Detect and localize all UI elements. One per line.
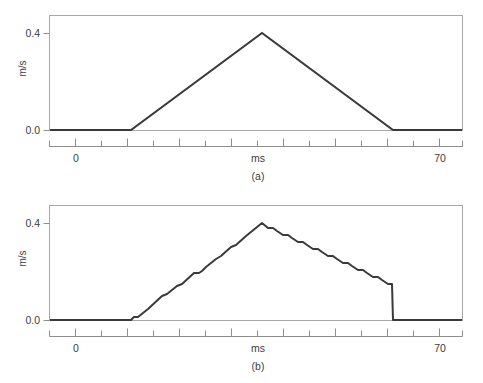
- plot-a-xaxis-unit-label: ms: [240, 152, 276, 164]
- plot-a-ytick-label-upper: 0.4: [10, 27, 40, 39]
- plot-b-yticks: [44, 224, 50, 321]
- plot-a-xticks: [50, 139, 463, 147]
- plot-b-xaxis-unit-label: ms: [240, 342, 276, 354]
- plot-a-yticks: [44, 34, 50, 131]
- plot-b-caption: (b): [228, 360, 288, 372]
- plot-a-caption: (a): [228, 170, 288, 182]
- plot-b-xtick-label-zero: 0: [60, 342, 92, 354]
- plot-b-frame: [50, 206, 463, 321]
- plot-a-frame: [50, 16, 463, 131]
- plot-a-xtick-label-seventy: 70: [424, 152, 456, 164]
- plot-a-trace: [50, 33, 462, 130]
- plot-b-xticks: [50, 329, 463, 337]
- plot-b-ytick-label-lower: 0.0: [10, 314, 40, 326]
- plot-b-ylabel: m/s: [17, 239, 28, 279]
- plot-b-ytick-label-upper: 0.4: [10, 217, 40, 229]
- figure-container: m/s 0.4 0.0 0 ms 70 (a): [0, 0, 483, 383]
- plot-a-ylabel: m/s: [17, 49, 28, 89]
- plot-a-xtick-label-zero: 0: [60, 152, 92, 164]
- chart-panel-b: m/s 0.4 0.0 0 ms 70 (b): [0, 191, 483, 382]
- plot-b-xtick-label-seventy: 70: [424, 342, 456, 354]
- chart-panel-a: m/s 0.4 0.0 0 ms 70 (a): [0, 0, 483, 191]
- plot-b-svg: [0, 191, 483, 383]
- plot-a-ytick-label-lower: 0.0: [10, 124, 40, 136]
- plot-b-trace: [50, 223, 462, 320]
